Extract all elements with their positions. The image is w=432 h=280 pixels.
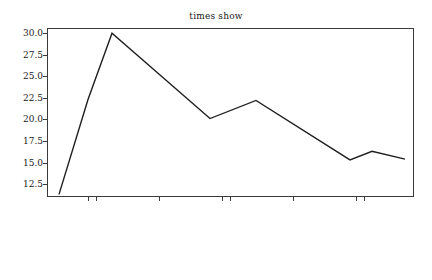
y-tick-mark [43, 141, 47, 142]
y-tick-mark [43, 119, 47, 120]
x-tick-mark [230, 197, 231, 201]
chart-title: times show [0, 11, 432, 21]
x-tick-mark [222, 197, 223, 201]
x-tick-mark [356, 197, 357, 201]
data-series-line [59, 33, 405, 194]
x-tick-mark [293, 197, 294, 201]
y-tick-label: 12.5 [23, 179, 43, 189]
y-tick-label: 17.5 [23, 136, 43, 146]
y-tick-label: 20.0 [23, 114, 43, 124]
y-tick-mark [43, 76, 47, 77]
y-tick-mark [43, 55, 47, 56]
y-tick-label: 30.0 [23, 28, 43, 38]
x-tick-mark [96, 197, 97, 201]
y-tick-mark [43, 98, 47, 99]
y-tick-label: 15.0 [23, 158, 43, 168]
y-axis: 12.515.017.520.022.525.027.530.0 [0, 0, 43, 280]
x-tick-mark [364, 197, 365, 201]
y-tick-mark [43, 163, 47, 164]
y-tick-label: 22.5 [23, 93, 43, 103]
x-tick-mark [159, 197, 160, 201]
y-tick-mark [43, 33, 47, 34]
y-tick-mark [43, 184, 47, 185]
plot-area [47, 28, 414, 197]
y-tick-label: 27.5 [23, 50, 43, 60]
y-tick-label: 25.0 [23, 71, 43, 81]
chart-container: times show 12.515.017.520.022.525.027.53… [0, 0, 432, 280]
x-tick-mark [88, 197, 89, 201]
